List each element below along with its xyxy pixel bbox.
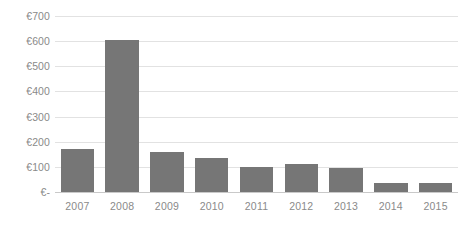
y-axis-tick-label: €400 — [0, 86, 50, 96]
bar-chart: €-€100€200€300€400€500€600€700 200720082… — [0, 0, 464, 225]
bar-2011[interactable] — [240, 167, 273, 192]
x-axis-tick-label: 2012 — [279, 200, 324, 212]
bar-2013[interactable] — [329, 168, 362, 192]
x-axis-tick-label: 2011 — [234, 200, 279, 212]
x-axis-tick-label: 2010 — [189, 200, 234, 212]
y-axis-tick-label: €600 — [0, 36, 50, 46]
x-axis-line — [55, 192, 458, 193]
x-axis-tick-label: 2008 — [100, 200, 145, 212]
bar-2009[interactable] — [150, 152, 183, 192]
x-axis-tick-label: 2013 — [324, 200, 369, 212]
bar-2007[interactable] — [61, 149, 94, 192]
bars-layer — [55, 16, 458, 192]
y-axis-tick-label: €200 — [0, 137, 50, 147]
y-axis-tick-label: €100 — [0, 162, 50, 172]
y-axis-tick-label: €300 — [0, 112, 50, 122]
y-axis-tick-label: €500 — [0, 61, 50, 71]
y-axis-tick-labels: €-€100€200€300€400€500€600€700 — [0, 0, 50, 225]
bar-2008[interactable] — [105, 40, 138, 192]
x-axis-tick-label: 2007 — [55, 200, 100, 212]
bar-2015[interactable] — [419, 183, 452, 192]
y-axis-tick-label: €700 — [0, 11, 50, 21]
bar-2010[interactable] — [195, 158, 228, 192]
x-axis-tick-labels: 200720082009201020112012201320142015 — [55, 196, 458, 218]
x-axis-tick-label: 2015 — [413, 200, 458, 212]
x-axis-tick-label: 2014 — [368, 200, 413, 212]
x-axis-tick-label: 2009 — [145, 200, 190, 212]
y-axis-tick-label: €- — [0, 187, 50, 197]
bar-2014[interactable] — [374, 183, 407, 192]
bar-2012[interactable] — [285, 164, 318, 192]
